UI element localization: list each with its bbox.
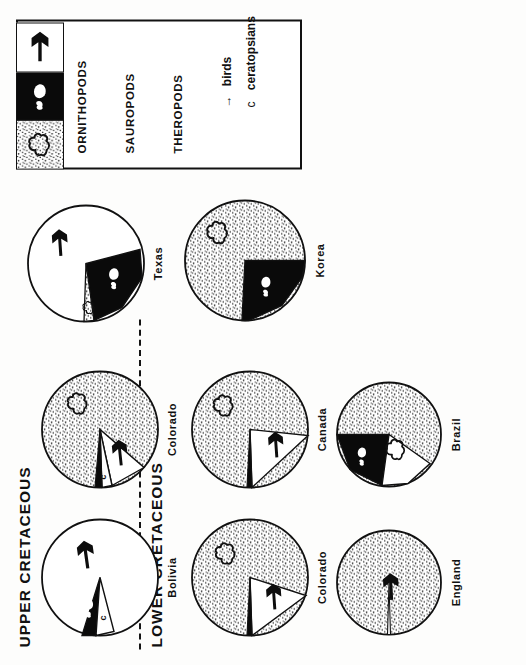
pie-chart-texas [22,199,150,327]
legend-symbol-ceratopsians-label: ceratopsians [244,16,258,90]
pie-chart-bolivia: c [36,513,164,641]
figure-canvas: UPPER CRETACEOUS LOWER CRETACEOUS [0,0,526,665]
pie-label-england: England [450,523,462,641]
pie-panel-bolivia[interactable]: c Bolivia [36,513,164,641]
legend-swatch-sauropods [16,71,64,121]
pie-label-colorado-upper: Colorado [166,365,178,493]
pie-chart-england [330,523,448,641]
pie-label-canada: Canada [316,365,328,493]
ceratopsian-c-icon: c [244,101,258,107]
legend-name-sauropods: SAUROPODS [124,73,136,153]
legend-swatch-ornithopods [16,119,64,169]
legend-symbol-birds-label: birds [220,56,234,85]
pie-label-bolivia: Bolivia [166,513,178,641]
svg-text:c: c [98,474,108,479]
section-title-upper-cretaceous: UPPER CRETACEOUS [16,466,34,647]
pie-label-colorado-lower: Colorado [316,513,328,641]
pie-chart-colorado-lower [186,513,314,641]
pie-chart-colorado-upper: c [36,365,164,493]
legend-swatch-strip [16,19,64,169]
pie-label-texas: Texas [152,199,164,327]
legend-name-ornithopods: ORNITHOPODS [76,60,88,153]
pie-panel-brazil[interactable]: Brazil [330,375,448,493]
pie-panel-texas[interactable]: Texas [22,199,150,327]
pie-panel-england[interactable]: England [330,523,448,641]
pie-panel-korea[interactable]: Korea [178,193,312,327]
bird-arrow-icon: → [220,95,234,107]
pie-panel-canada[interactable]: Canada [186,365,314,493]
legend-swatch-theropods [16,22,64,72]
legend-symbol-birds: → birds [220,56,234,107]
pie-panel-colorado-lower[interactable]: Colorado [186,513,314,641]
pie-label-brazil: Brazil [450,375,462,493]
pie-chart-canada [186,365,314,493]
pie-label-korea: Korea [314,193,326,327]
legend-name-theropods: THEROPODS [172,74,184,153]
svg-text:c: c [98,615,108,620]
pie-chart-korea [178,193,312,327]
pie-panel-colorado-upper[interactable]: c Colorado [36,365,164,493]
legend-symbol-ceratopsians: c ceratopsians [244,16,258,107]
pie-chart-brazil [330,375,448,493]
